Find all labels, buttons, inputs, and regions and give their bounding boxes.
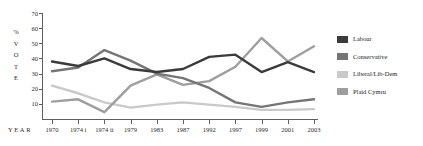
y-axis-caption: %VOTE bbox=[9, 26, 23, 84]
y-caption-char: T bbox=[14, 61, 18, 73]
y-tick-label: 10 bbox=[22, 100, 38, 107]
x-tick-mark bbox=[235, 120, 236, 124]
y-caption-char: O bbox=[14, 49, 19, 61]
x-tick-mark bbox=[78, 120, 79, 124]
x-tick-label: 1979 bbox=[124, 126, 137, 134]
x-tick-label: 1999 bbox=[255, 126, 268, 134]
y-tick-label: 70 bbox=[22, 10, 38, 17]
x-tick-label: 1974 i bbox=[70, 126, 86, 134]
x-tick-mark bbox=[183, 120, 184, 124]
y-tick-mark bbox=[39, 43, 43, 44]
y-tick-label: 60 bbox=[22, 25, 38, 32]
y-tick-mark bbox=[39, 58, 43, 59]
legend-item-label: Conservative bbox=[353, 53, 387, 61]
legend-item-label: Labour bbox=[353, 35, 372, 43]
plot-area bbox=[42, 13, 318, 120]
legend-swatch-icon bbox=[337, 88, 348, 95]
legend-item-label: Plaid Cymru bbox=[353, 88, 386, 96]
y-tick-mark bbox=[39, 13, 43, 14]
x-tick-mark bbox=[262, 120, 263, 124]
x-tick-mark bbox=[288, 120, 289, 124]
chart-legend: LabourConservativeLiberal/Lib-DemPlaid C… bbox=[337, 33, 421, 103]
y-caption-char: % bbox=[13, 26, 18, 38]
legend-item[interactable]: Liberal/Lib-Dem bbox=[337, 68, 421, 80]
y-tick-mark bbox=[39, 89, 43, 90]
y-axis-tick-labels: 10203040506070 bbox=[22, 9, 38, 124]
y-caption-char: V bbox=[14, 38, 19, 50]
x-tick-mark bbox=[209, 120, 210, 124]
x-tick-mark bbox=[157, 120, 158, 124]
legend-item[interactable]: Plaid Cymru bbox=[337, 86, 421, 98]
series-line-labour bbox=[52, 55, 314, 72]
x-tick-label: 1992 bbox=[203, 126, 216, 134]
y-tick-label: 30 bbox=[22, 70, 38, 77]
x-tick-mark bbox=[104, 120, 105, 124]
legend-item-label: Liberal/Lib-Dem bbox=[353, 70, 397, 78]
x-tick-label: 1970 bbox=[46, 126, 59, 134]
chart-container: %VOTE 10203040506070 YEAR 19701974 i1974… bbox=[0, 0, 423, 146]
legend-swatch-icon bbox=[337, 53, 348, 60]
legend-swatch-icon bbox=[337, 71, 348, 78]
x-axis-tick-labels: 19701974 i1974 ii19791983198719921997199… bbox=[0, 126, 423, 138]
y-tick-mark bbox=[39, 28, 43, 29]
y-tick-mark bbox=[39, 104, 43, 105]
legend-item[interactable]: Conservative bbox=[337, 51, 421, 63]
legend-swatch-icon bbox=[337, 36, 348, 43]
x-tick-label: 2001 bbox=[281, 126, 294, 134]
y-tick-label: 40 bbox=[22, 55, 38, 62]
x-tick-mark bbox=[314, 120, 315, 124]
series-lines bbox=[42, 13, 318, 120]
x-tick-label: 1997 bbox=[229, 126, 242, 134]
series-line-plaid-cymru bbox=[52, 38, 314, 112]
x-tick-label: 1983 bbox=[150, 126, 163, 134]
x-tick-mark bbox=[52, 120, 53, 124]
x-tick-label: 2003 bbox=[308, 126, 321, 134]
y-tick-mark bbox=[39, 74, 43, 75]
x-tick-label: 1987 bbox=[177, 126, 190, 134]
y-tick-label: 50 bbox=[22, 40, 38, 47]
x-tick-label: 1974 ii bbox=[95, 126, 113, 134]
legend-item[interactable]: Labour bbox=[337, 33, 421, 45]
y-tick-label: 20 bbox=[22, 85, 38, 92]
x-tick-mark bbox=[131, 120, 132, 124]
y-caption-char: E bbox=[14, 72, 18, 84]
